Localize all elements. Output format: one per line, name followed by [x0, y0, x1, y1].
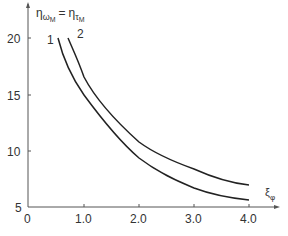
- x-axis-arrow-icon: [274, 205, 280, 209]
- x-tick-label: 3.0: [185, 212, 202, 226]
- x-tick-label: 1.0: [75, 212, 92, 226]
- x-tick-label: 2.0: [130, 212, 147, 226]
- curve-2-label: 2: [77, 27, 84, 41]
- x-axis-label: ξφ: [265, 186, 275, 202]
- y-tick-label: 20: [7, 32, 21, 46]
- y-tick-label: 5: [15, 201, 22, 215]
- curve-1-label: 1: [47, 33, 54, 47]
- curve-1: [58, 38, 249, 200]
- curve-2: [68, 38, 249, 185]
- x-tick-label: 0: [24, 212, 31, 226]
- chart: 20 15 10 5 0 1.0 2.0 3.0 4.0 ηωM=ητM ξφ …: [0, 0, 288, 236]
- y-axis-label: ηωM=ητM: [36, 6, 85, 23]
- x-tick-label: 4.0: [240, 212, 257, 226]
- y-tick-label: 10: [7, 145, 21, 159]
- y-axis-arrow-icon: [26, 2, 30, 8]
- y-tick-label: 15: [7, 89, 21, 103]
